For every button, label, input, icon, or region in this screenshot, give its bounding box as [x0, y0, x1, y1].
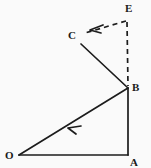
edge-C-E	[85, 21, 126, 33]
vertex-label-O: O	[5, 149, 14, 161]
vertex-label-E: E	[125, 2, 132, 14]
diagram-canvas: E C B O A	[0, 0, 151, 168]
edge-E-B	[127, 22, 128, 86]
vertex-label-A: A	[130, 156, 138, 168]
vertex-label-B: B	[132, 81, 140, 93]
edge-B-C	[81, 44, 128, 88]
arrow-toward-O-icon	[68, 126, 81, 134]
vertex-label-C: C	[68, 29, 76, 41]
edge-B-O	[19, 88, 128, 155]
vector-diagram-figure: E C B O A	[0, 0, 151, 168]
